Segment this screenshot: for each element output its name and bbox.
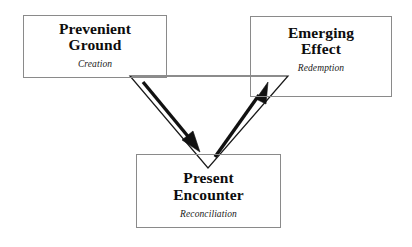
node-title-present-encounter: Present Encounter <box>173 170 244 203</box>
node-title-prevenient-ground: Prevenient Ground <box>59 21 131 54</box>
node-label-stack: Present Encounter Reconciliation <box>173 170 244 220</box>
node-subtitle-present-encounter: Reconciliation <box>180 209 237 220</box>
arrow-ground-to-encounter <box>143 82 200 152</box>
diagram-canvas: Prevenient Ground Creation Emerging Effe… <box>0 0 412 247</box>
node-label-stack: Prevenient Ground Creation <box>59 21 131 71</box>
node-label-stack: Emerging Effect Redemption <box>288 25 354 75</box>
node-title-emerging-effect: Emerging Effect <box>288 25 354 58</box>
node-prevenient-ground[interactable]: Prevenient Ground Creation <box>23 15 167 78</box>
node-present-encounter[interactable]: Present Encounter Reconciliation <box>136 154 281 228</box>
node-emerging-effect[interactable]: Emerging Effect Redemption <box>250 16 392 97</box>
node-subtitle-emerging-effect: Redemption <box>298 63 344 74</box>
node-subtitle-prevenient-ground: Creation <box>78 59 112 70</box>
